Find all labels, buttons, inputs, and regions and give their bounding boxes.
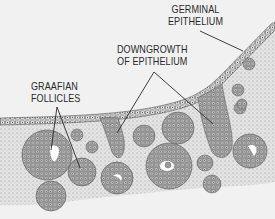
ovary-diagram (0, 0, 275, 219)
primordial-follicle (237, 99, 247, 109)
graafian-follicle (68, 158, 96, 186)
primordial-follicle (71, 129, 83, 141)
label-line: FOLLICLES (31, 92, 80, 104)
primordial-follicle (86, 141, 98, 153)
primordial-follicle (203, 175, 221, 193)
follicle (162, 112, 194, 144)
leader-germinal (200, 31, 243, 51)
label-line: GERMINAL (168, 3, 223, 15)
primordial-follicle (232, 84, 244, 96)
label-line: OF EPITHELIUM (117, 55, 188, 67)
follicle (101, 162, 133, 194)
label-line: EPITHELIUM (168, 15, 223, 27)
label-downgrowth-of-epithelium: DOWNGROWTH OF EPITHELIUM (117, 43, 188, 67)
oocyte (165, 162, 171, 168)
follicle-right (233, 134, 267, 168)
label-line: GRAAFIAN (31, 80, 80, 92)
primordial-follicle (243, 58, 255, 70)
label-line: DOWNGROWTH (117, 43, 188, 55)
label-germinal-epithelium: GERMINAL EPITHELIUM (168, 3, 223, 27)
graafian-follicle-large-left (22, 130, 72, 180)
primordial-follicle (133, 125, 155, 147)
follicle (36, 181, 66, 211)
label-graafian-follicles: GRAAFIAN FOLLICLES (31, 80, 80, 104)
primordial-follicle (197, 155, 213, 171)
